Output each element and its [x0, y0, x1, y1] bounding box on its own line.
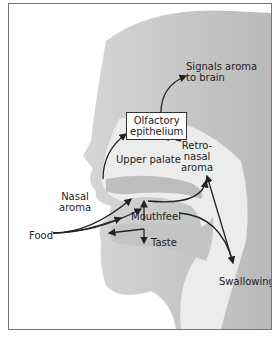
olfactory-line2: epithelium	[130, 126, 183, 137]
nasal-line2: aroma	[59, 202, 91, 213]
label-taste: Taste	[151, 237, 177, 248]
diagram-frame: Signals aroma to brain Olfactory epithel…	[8, 3, 272, 330]
retronasal-line2: nasal	[181, 151, 213, 162]
nasal-line1: Nasal	[59, 191, 91, 202]
olfactory-epithelium-box: Olfactory epithelium	[126, 112, 187, 140]
label-mouthfeel: Mouthfeel	[131, 211, 181, 222]
label-food: Food	[29, 230, 53, 241]
label-signals-line2: to brain	[186, 72, 257, 83]
label-signals-line1: Signals aroma	[186, 61, 257, 72]
retronasal-line1: Retro-	[181, 140, 213, 151]
label-upper-palate: Upper palate	[116, 154, 181, 165]
label-nasal-aroma: Nasal aroma	[59, 191, 91, 213]
label-signals: Signals aroma to brain	[186, 61, 257, 83]
retronasal-line3: aroma	[181, 162, 213, 173]
label-retronasal: Retro- nasal aroma	[181, 140, 213, 173]
label-swallowing: Swallowing	[219, 276, 272, 287]
olfactory-line1: Olfactory	[130, 115, 183, 126]
